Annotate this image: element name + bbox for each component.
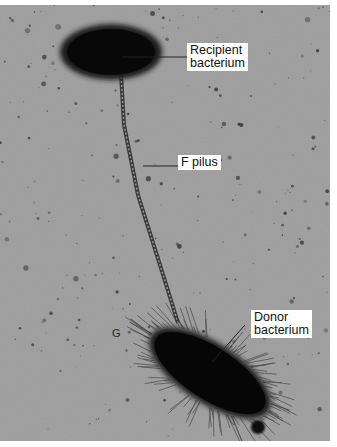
speck xyxy=(299,238,301,240)
speck xyxy=(60,27,62,29)
speck xyxy=(216,8,217,9)
speck xyxy=(288,77,289,78)
speck xyxy=(34,202,35,203)
speck xyxy=(209,329,211,331)
speck xyxy=(290,299,294,303)
speck xyxy=(112,257,115,260)
speck xyxy=(42,55,47,60)
speck xyxy=(82,179,84,181)
speck xyxy=(127,113,129,115)
speck xyxy=(76,326,78,328)
speck xyxy=(287,363,290,366)
speck xyxy=(322,7,323,8)
speck xyxy=(9,17,11,19)
speck xyxy=(329,11,330,12)
speck xyxy=(312,354,313,355)
speck xyxy=(4,61,6,63)
speck xyxy=(217,37,218,38)
speck xyxy=(40,350,42,352)
speck xyxy=(252,211,253,212)
speck xyxy=(119,272,120,273)
speck xyxy=(163,399,166,402)
speck xyxy=(122,235,124,237)
speck xyxy=(129,303,131,305)
speck xyxy=(221,127,223,129)
speck xyxy=(200,292,201,293)
speck xyxy=(9,221,11,223)
speck xyxy=(312,147,315,150)
speck xyxy=(94,274,96,276)
speck xyxy=(318,7,320,9)
speck xyxy=(290,192,291,193)
speck xyxy=(162,16,165,19)
speck xyxy=(125,398,129,402)
speck xyxy=(36,213,37,214)
speck xyxy=(84,275,85,276)
speck xyxy=(278,126,279,127)
speck xyxy=(275,83,277,85)
speck xyxy=(269,53,270,54)
speck xyxy=(82,345,84,347)
speck xyxy=(80,356,81,357)
speck xyxy=(222,122,226,126)
speck xyxy=(261,11,264,14)
speck xyxy=(239,184,240,185)
speck xyxy=(67,275,68,276)
speck xyxy=(81,215,82,216)
speck xyxy=(57,298,59,300)
speck xyxy=(128,331,131,334)
speck xyxy=(307,227,310,230)
speck xyxy=(48,221,49,222)
speck xyxy=(25,28,30,33)
speck xyxy=(47,110,49,112)
speck xyxy=(316,49,319,52)
speck xyxy=(317,407,321,411)
speck xyxy=(31,63,32,64)
speck xyxy=(96,419,97,420)
speck xyxy=(41,82,46,87)
speck xyxy=(250,95,252,97)
speck xyxy=(55,24,61,30)
speck xyxy=(66,235,67,236)
speck xyxy=(162,27,164,29)
speck xyxy=(28,137,31,140)
speck xyxy=(304,200,307,203)
speck xyxy=(0,213,2,215)
speck xyxy=(74,102,77,105)
speck xyxy=(172,428,173,429)
speck xyxy=(45,76,46,77)
speck xyxy=(258,190,262,194)
micrograph: G Recipient bacterium F pilus Donor bact… xyxy=(0,5,330,441)
speck xyxy=(34,181,35,182)
speck xyxy=(54,69,55,70)
speck xyxy=(283,356,284,357)
speck xyxy=(197,220,198,221)
speck xyxy=(48,148,49,149)
speck xyxy=(283,212,286,215)
speck xyxy=(58,87,60,89)
speck xyxy=(209,86,211,88)
speck xyxy=(101,110,104,113)
speck xyxy=(219,94,222,97)
speck xyxy=(268,249,270,251)
speck xyxy=(177,244,182,249)
speck xyxy=(287,190,288,191)
speck xyxy=(318,352,320,354)
speck xyxy=(125,350,127,352)
speck xyxy=(27,187,28,188)
speck xyxy=(31,343,34,346)
speck xyxy=(171,102,172,103)
speck xyxy=(62,287,63,288)
speck xyxy=(250,289,251,290)
speck xyxy=(183,252,184,253)
speck xyxy=(160,182,163,185)
speck xyxy=(273,223,275,225)
speck xyxy=(85,122,87,124)
pilus-hair xyxy=(206,310,207,336)
speck xyxy=(161,249,162,250)
speck xyxy=(105,404,106,405)
background-texture xyxy=(0,5,330,441)
speck xyxy=(68,112,70,114)
speck xyxy=(10,102,11,103)
speck xyxy=(27,65,30,68)
